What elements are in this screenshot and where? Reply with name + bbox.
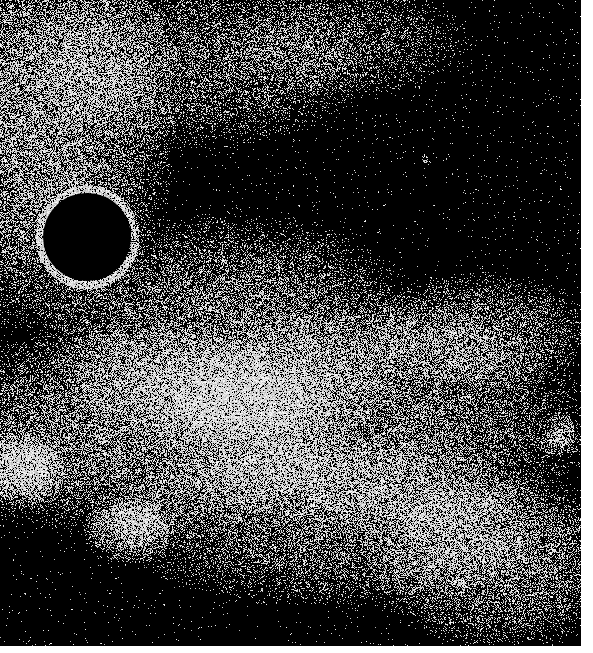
starfield-scene [0,0,581,646]
dark-disk [43,193,131,281]
star-cloud-canvas [0,0,581,646]
